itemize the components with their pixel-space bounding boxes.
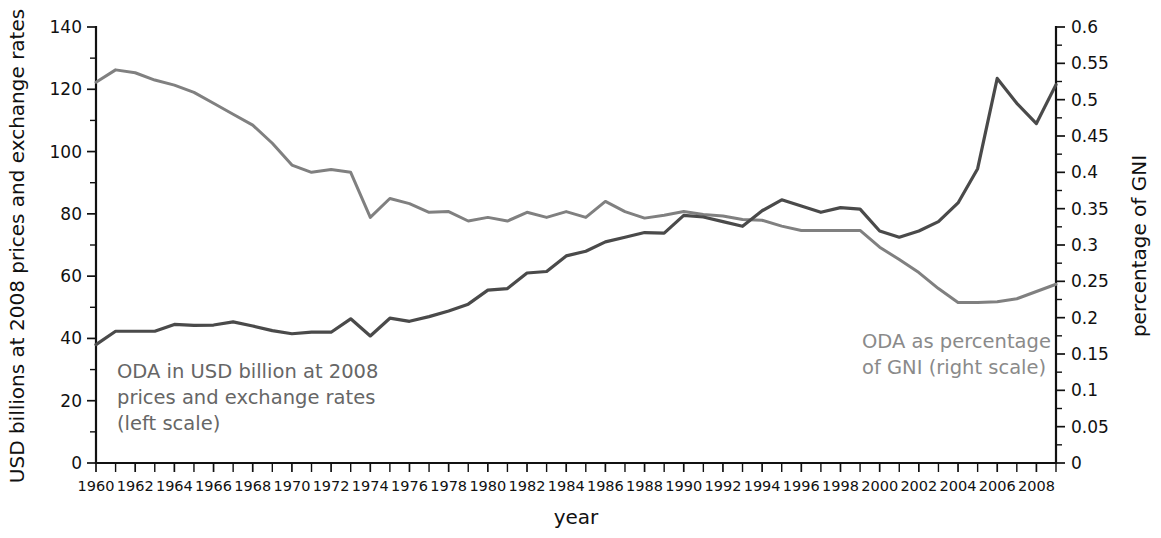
y-axis-left-tick-label: 80 xyxy=(60,204,82,224)
x-axis-ticks xyxy=(96,463,1056,472)
y-axis-left-tick-label: 120 xyxy=(50,79,82,99)
x-axis-tick-label: 1990 xyxy=(665,478,702,494)
x-axis-tick-label: 1980 xyxy=(469,478,506,494)
y-axis-right-tick-label: 0 xyxy=(1071,453,1082,473)
x-axis-tick-label: 1972 xyxy=(313,478,350,494)
x-axis-tick-label: 1960 xyxy=(78,478,115,494)
y-axis-left-tick-label: 40 xyxy=(60,328,82,348)
x-axis-tick-label: 1986 xyxy=(587,478,624,494)
x-axis-title: year xyxy=(554,505,599,529)
x-axis-tick-label: 1994 xyxy=(744,478,781,494)
y-axis-right-tick-label: 0.2 xyxy=(1071,308,1098,328)
y-axis-right-tick-labels: 00.050.10.150.20.250.30.350.40.450.50.55… xyxy=(1071,17,1109,473)
oda-usd-annotation-line-1: ODA in USD billion at 2008 xyxy=(117,360,378,383)
chart-container: 020406080100120140 00.050.10.150.20.250.… xyxy=(0,0,1161,538)
x-axis-tick-label: 1984 xyxy=(548,478,585,494)
x-axis-tick-label: 2008 xyxy=(1018,478,1055,494)
y-axis-left-tick-label: 140 xyxy=(50,17,82,37)
oda-gni-annotation-line-2: of GNI (right scale) xyxy=(862,356,1046,379)
y-axis-left-tick-label: 100 xyxy=(50,142,82,162)
y-axis-right-tick-label: 0.3 xyxy=(1071,235,1098,255)
x-axis-tick-label: 1962 xyxy=(117,478,154,494)
x-axis-tick-label: 1978 xyxy=(430,478,467,494)
x-axis-tick-label: 1996 xyxy=(783,478,820,494)
y-axis-right-tick-label: 0.5 xyxy=(1071,90,1098,110)
y-axis-right-tick-label: 0.4 xyxy=(1071,162,1098,182)
x-axis-tick-label: 1966 xyxy=(195,478,232,494)
oda-usd-annotation-line-2: prices and exchange rates xyxy=(117,386,375,409)
x-axis-tick-label: 1974 xyxy=(352,478,389,494)
x-axis-tick-labels: 1960196219641966196819701972197419761978… xyxy=(78,478,1055,494)
y-axis-right-tick-label: 0.45 xyxy=(1071,126,1109,146)
y-axis-left-tick-label: 20 xyxy=(60,391,82,411)
oda-usd-annotation: ODA in USD billion at 2008 prices and ex… xyxy=(117,360,378,435)
y-axis-left-tick-labels: 020406080100120140 xyxy=(50,17,82,473)
y-axis-left-tick-label: 0 xyxy=(71,453,82,473)
x-axis-tick-label: 1976 xyxy=(391,478,428,494)
x-axis-tick-label: 1968 xyxy=(234,478,271,494)
y-axis-left-title: USD billions at 2008 prices and exchange… xyxy=(5,9,29,483)
x-axis-tick-label: 1988 xyxy=(626,478,663,494)
y-axis-right-tick-label: 0.15 xyxy=(1071,344,1109,364)
y-axis-right-title: percentage of GNI xyxy=(1127,155,1151,337)
x-axis-tick-label: 1998 xyxy=(822,478,859,494)
x-axis-tick-label: 2002 xyxy=(900,478,937,494)
x-axis-tick-label: 1982 xyxy=(509,478,546,494)
x-axis-tick-label: 1970 xyxy=(273,478,310,494)
x-axis-tick-label: 2000 xyxy=(861,478,898,494)
y-axis-left-ticks xyxy=(87,27,96,463)
x-axis-tick-label: 1964 xyxy=(156,478,193,494)
oda-gni-annotation-line-1: ODA as percentage xyxy=(862,330,1051,353)
y-axis-right-tick-label: 0.55 xyxy=(1071,53,1109,73)
y-axis-right-tick-label: 0.6 xyxy=(1071,17,1098,37)
y-axis-right-tick-label: 0.05 xyxy=(1071,417,1109,437)
y-axis-right-tick-label: 0.35 xyxy=(1071,199,1109,219)
series-line-oda-percentage-gni xyxy=(96,70,1056,303)
oda-usd-annotation-line-3: (left scale) xyxy=(117,412,220,435)
y-axis-right-tick-label: 0.25 xyxy=(1071,271,1109,291)
x-axis-tick-label: 2006 xyxy=(979,478,1016,494)
x-axis-tick-label: 1992 xyxy=(704,478,741,494)
y-axis-left-tick-label: 60 xyxy=(60,266,82,286)
line-chart: 020406080100120140 00.050.10.150.20.250.… xyxy=(0,0,1161,538)
oda-gni-annotation: ODA as percentage of GNI (right scale) xyxy=(862,330,1051,379)
y-axis-right-tick-label: 0.1 xyxy=(1071,380,1098,400)
y-axis-right-ticks xyxy=(1056,27,1065,463)
x-axis-tick-label: 2004 xyxy=(940,478,977,494)
